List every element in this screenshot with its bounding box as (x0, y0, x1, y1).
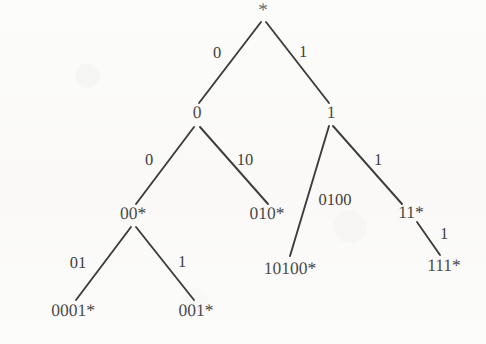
edge-label-n11-to-n111: 1 (440, 226, 448, 243)
edge-label-n1-to-n10100: 0100 (319, 192, 352, 209)
tree-node-n10100: 10100* (264, 260, 317, 278)
tree-edges-layer (0, 0, 486, 344)
tree-edge-root-to-n1 (266, 22, 329, 103)
tree-node-root: * (258, 1, 268, 20)
tree-edge-n0-to-n010 (200, 127, 268, 204)
tree-edge-root-to-n0 (199, 22, 261, 103)
tree-edge-n11-to-n111 (417, 222, 440, 255)
edge-label-n0-to-n00: 0 (145, 152, 153, 169)
edge-label-root-to-n0: 0 (213, 45, 221, 62)
edge-label-n1-to-n11: 1 (374, 152, 382, 169)
tree-node-n0001: 0001* (51, 302, 95, 320)
tree-node-n11: 11* (398, 204, 424, 222)
edge-label-n00-to-n001: 1 (178, 254, 186, 271)
edge-label-n0-to-n010: 10 (237, 152, 254, 169)
tree-diagram: 01010010011011*0100*010*10100*11*111*000… (0, 0, 486, 344)
tree-node-n010: 010* (250, 205, 285, 223)
edge-label-root-to-n1: 1 (299, 44, 307, 61)
tree-node-n111: 111* (427, 257, 461, 275)
tree-node-n001: 001* (179, 302, 214, 320)
edge-label-n00-to-n0001: 01 (70, 255, 87, 272)
tree-node-n00: 00* (120, 205, 146, 223)
tree-node-n0: 0 (193, 104, 202, 122)
tree-node-n1: 1 (327, 104, 336, 122)
